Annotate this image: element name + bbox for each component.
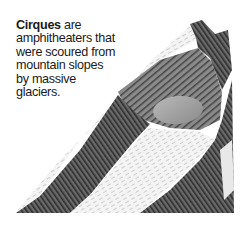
caption: Cirques are amphitheaters that were scou… [16,19,116,99]
caption-term: Cirques [16,18,61,32]
